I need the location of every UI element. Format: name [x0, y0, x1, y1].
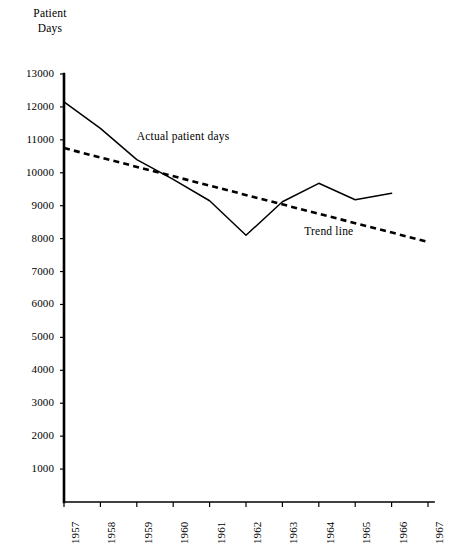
chart-figure: Patient Days 130001200011000100009000800… — [0, 0, 461, 558]
plot-area — [0, 0, 461, 558]
series-line-trend — [64, 148, 428, 242]
axis-lines — [64, 74, 434, 502]
series-annotation-label: Trend line — [304, 225, 353, 237]
series-line-actual-patient-days — [64, 102, 392, 235]
series-annotation-label: Actual patient days — [137, 130, 230, 142]
